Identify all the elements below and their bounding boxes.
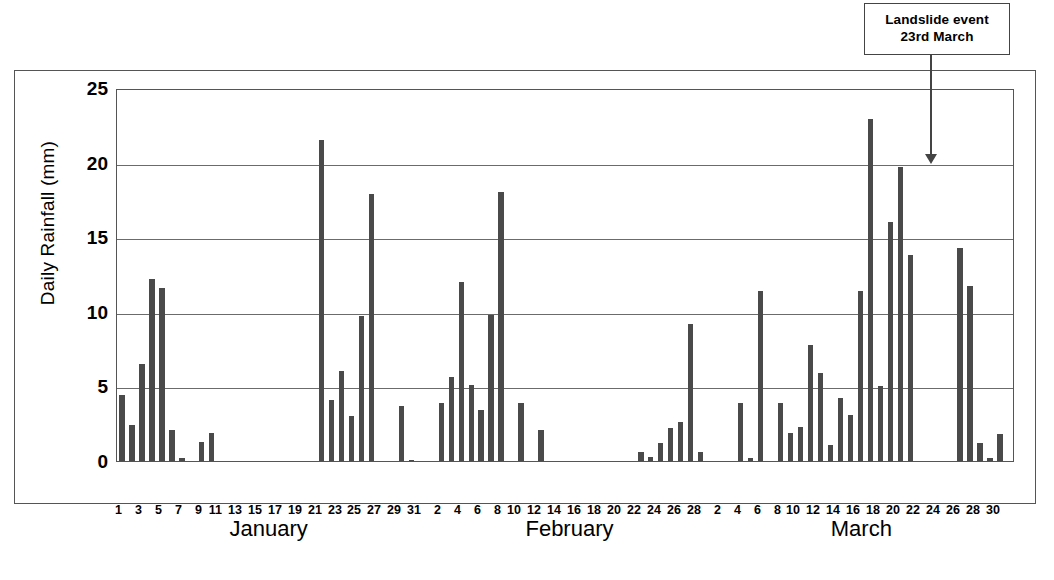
bar bbox=[319, 140, 324, 461]
x-tick-label: 16 bbox=[567, 503, 581, 517]
x-tick-label: 30 bbox=[986, 503, 1000, 517]
bar bbox=[738, 403, 743, 461]
y-tick-10: 10 bbox=[48, 302, 108, 324]
y-axis-title: Daily Rainfall (mm) bbox=[37, 113, 59, 333]
x-tick-label: 20 bbox=[607, 503, 621, 517]
month-labels: JanuaryFebruaryMarch bbox=[116, 516, 1014, 556]
bar bbox=[838, 398, 843, 461]
bar-series bbox=[117, 90, 1013, 461]
bar bbox=[668, 428, 673, 461]
bar bbox=[818, 373, 823, 461]
x-tick-label: 26 bbox=[667, 503, 681, 517]
bar bbox=[688, 324, 693, 461]
bar bbox=[648, 457, 653, 461]
annotation-arrow-head-icon bbox=[925, 154, 937, 164]
x-tick-label: 8 bbox=[494, 503, 501, 517]
bar bbox=[488, 315, 493, 461]
x-tick-label: 2 bbox=[434, 503, 441, 517]
x-tick-label: 2 bbox=[714, 503, 721, 517]
bar bbox=[449, 377, 454, 461]
x-tick-label: 4 bbox=[454, 503, 461, 517]
bar bbox=[808, 345, 813, 461]
x-axis-tick-labels: 1357911131517192123252729312468101214161… bbox=[116, 464, 1014, 510]
x-tick-label: 19 bbox=[288, 503, 302, 517]
bar bbox=[469, 385, 474, 461]
bar bbox=[409, 460, 414, 461]
annotation-arrow-shaft-icon bbox=[930, 55, 932, 160]
month-label-january: January bbox=[230, 516, 308, 542]
x-tick-label: 5 bbox=[155, 503, 162, 517]
x-tick-label: 3 bbox=[135, 503, 142, 517]
bar bbox=[798, 427, 803, 461]
bar bbox=[399, 406, 404, 461]
bar bbox=[987, 458, 992, 461]
bar bbox=[848, 415, 853, 461]
x-tick-label: 24 bbox=[926, 503, 940, 517]
x-tick-label: 13 bbox=[228, 503, 242, 517]
x-tick-label: 17 bbox=[268, 503, 282, 517]
annotation-line-1: Landslide event bbox=[885, 12, 989, 29]
bar bbox=[957, 248, 962, 461]
bar bbox=[758, 291, 763, 461]
x-tick-label: 12 bbox=[807, 503, 821, 517]
bar bbox=[498, 192, 503, 461]
x-tick-label: 14 bbox=[547, 503, 561, 517]
x-tick-label: 11 bbox=[209, 503, 222, 517]
month-label-march: March bbox=[831, 516, 892, 542]
x-tick-label: 1 bbox=[115, 503, 122, 517]
x-tick-label: 15 bbox=[248, 503, 262, 517]
y-tick-0: 0 bbox=[48, 451, 108, 473]
x-tick-label: 12 bbox=[527, 503, 541, 517]
x-tick-label: 22 bbox=[906, 503, 920, 517]
x-tick-label: 31 bbox=[407, 503, 421, 517]
bar bbox=[179, 458, 184, 461]
x-tick-label: 6 bbox=[474, 503, 481, 517]
x-tick-label: 23 bbox=[328, 503, 342, 517]
bar bbox=[129, 425, 134, 461]
bar bbox=[439, 403, 444, 461]
x-tick-label: 10 bbox=[787, 503, 801, 517]
bar bbox=[878, 386, 883, 461]
bar bbox=[698, 452, 703, 461]
x-tick-label: 16 bbox=[846, 503, 860, 517]
bar bbox=[538, 430, 543, 461]
bar bbox=[778, 403, 783, 461]
x-tick-label: 18 bbox=[866, 503, 880, 517]
y-tick-20: 20 bbox=[48, 153, 108, 175]
bar bbox=[349, 416, 354, 461]
landslide-annotation-box: Landslide event 23rd March bbox=[864, 3, 1010, 55]
bar bbox=[967, 286, 972, 461]
bar bbox=[888, 222, 893, 461]
bar bbox=[199, 442, 204, 461]
x-tick-label: 7 bbox=[175, 503, 182, 517]
bar bbox=[478, 410, 483, 461]
x-tick-label: 6 bbox=[754, 503, 761, 517]
bar bbox=[518, 403, 523, 461]
bar bbox=[359, 316, 364, 461]
bar bbox=[209, 433, 214, 461]
bar bbox=[159, 288, 164, 461]
x-tick-label: 27 bbox=[368, 503, 382, 517]
x-tick-label: 24 bbox=[647, 503, 661, 517]
x-tick-label: 22 bbox=[627, 503, 641, 517]
x-tick-label: 14 bbox=[826, 503, 840, 517]
y-tick-25: 25 bbox=[48, 78, 108, 100]
bar bbox=[658, 443, 663, 461]
bar bbox=[858, 291, 863, 461]
bar bbox=[868, 119, 873, 461]
x-tick-label: 25 bbox=[348, 503, 362, 517]
bar bbox=[898, 167, 903, 461]
bar bbox=[139, 364, 144, 461]
x-tick-label: 8 bbox=[774, 503, 781, 517]
bar bbox=[149, 279, 154, 461]
bar bbox=[997, 434, 1002, 461]
bar bbox=[748, 458, 753, 461]
bar bbox=[169, 430, 174, 461]
bar bbox=[339, 371, 344, 461]
x-tick-label: 29 bbox=[387, 503, 401, 517]
bar bbox=[638, 452, 643, 461]
x-tick-label: 9 bbox=[195, 503, 202, 517]
x-tick-label: 4 bbox=[734, 503, 741, 517]
bar bbox=[828, 445, 833, 461]
bar bbox=[908, 255, 913, 461]
